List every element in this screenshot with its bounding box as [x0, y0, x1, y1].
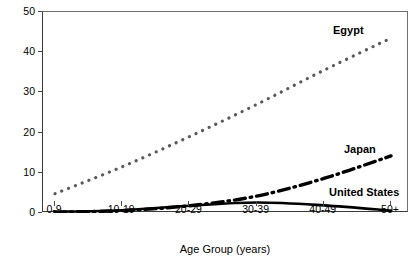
x-axis-title: Age Group (years)	[42, 243, 408, 255]
x-tick-mark	[323, 201, 324, 206]
x-tick-mark	[54, 201, 55, 206]
plot-area	[42, 11, 408, 212]
series-layer	[43, 12, 409, 213]
series-label-egypt: Egypt	[333, 24, 364, 36]
y-tick-label: 20	[9, 127, 35, 137]
y-tick-label: 30	[9, 86, 35, 96]
y-tick-label: 10	[9, 167, 35, 177]
x-tick-mark	[121, 201, 122, 206]
x-tick-mark	[188, 201, 189, 206]
x-tick-mark	[390, 201, 391, 206]
y-tick-label: 50	[9, 6, 35, 16]
series-line-egypt	[55, 38, 391, 194]
y-tick-label: 40	[9, 46, 35, 56]
series-label-united-states: United States	[329, 186, 399, 198]
series-label-japan: Japan	[344, 143, 376, 155]
x-tick-mark	[256, 201, 257, 206]
chart-container: Anti-HCV Positive (%) 01020304050 0-910-…	[0, 0, 419, 265]
